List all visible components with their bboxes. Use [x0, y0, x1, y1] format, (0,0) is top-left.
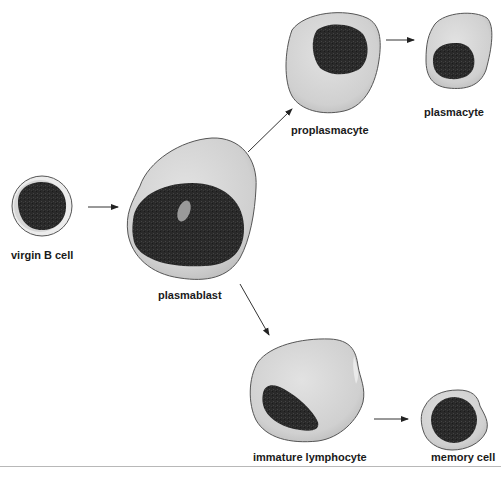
plasmacyte-cell [426, 13, 492, 88]
nucleus [18, 182, 66, 230]
plasmablast-cell [127, 138, 256, 279]
label-plasmacyte: plasmacyte [424, 106, 484, 118]
arrow-plasmablast-to-proplasmacyte [248, 109, 292, 152]
bottom-divider [0, 466, 501, 467]
proplasmacyte-cell [286, 13, 380, 113]
immature-lymphocyte-cell [250, 339, 364, 442]
label-proplasmacyte: proplasmacyte [291, 124, 369, 136]
label-virgin-b-cell: virgin B cell [11, 249, 73, 261]
diagram-canvas [0, 0, 501, 480]
label-immature-lymphocyte: immature lymphocyte [253, 451, 367, 463]
memory-cell [421, 390, 487, 450]
virgin-b-cell [12, 176, 72, 236]
label-memory-cell: memory cell [431, 451, 495, 463]
label-plasmablast: plasmablast [158, 289, 222, 301]
arrow-plasmablast-to-immature [240, 284, 269, 335]
